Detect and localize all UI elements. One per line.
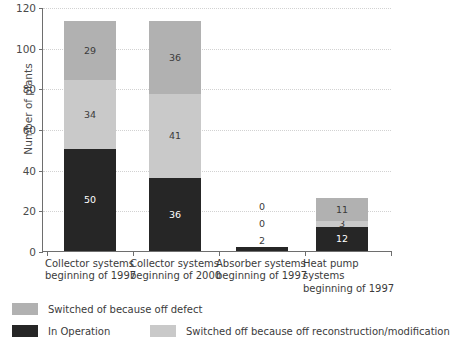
x-tick-mark: [47, 251, 48, 256]
x-category-label-line: Collector systems: [45, 258, 136, 270]
y-tick-label: 100: [16, 43, 36, 55]
x-category-label: Heat pumpsystemsbeginning of 1997: [303, 258, 394, 295]
plot-area: 020406080100120 50342936413620012311: [42, 8, 391, 252]
x-category-label-line: systems: [303, 270, 394, 282]
y-tick-label: 80: [23, 83, 36, 95]
y-tick-label: 120: [16, 2, 36, 14]
x-category-label-line: beginning of 1997: [45, 270, 136, 282]
legend-swatch: [150, 325, 176, 337]
y-tick-mark: [39, 252, 43, 253]
x-tick-mark: [219, 251, 220, 256]
legend-item[interactable]: In Operation: [12, 325, 110, 337]
y-tick-label: 40: [23, 165, 36, 177]
x-category-label: Collector systemsbeginning of 2000: [130, 258, 221, 283]
legend-swatch: [12, 303, 38, 315]
legend-item[interactable]: Switched off because off reconstruction/…: [150, 325, 450, 337]
y-tick-label: 0: [29, 246, 36, 258]
x-category-label-line: Collector systems: [130, 258, 221, 270]
y-tick-label: 20: [23, 205, 36, 217]
legend-label: In Operation: [48, 326, 110, 337]
legend-swatch: [12, 325, 38, 337]
x-category-label: Absorber systemsbeginning of 1997: [216, 258, 307, 283]
x-category-label: Collector systemsbeginning of 1997: [45, 258, 136, 283]
y-axis-title: Number of plants: [22, 34, 34, 184]
x-category-label-line: beginning of 2000: [130, 270, 221, 282]
x-category-label-line: Heat pump: [303, 258, 394, 270]
chart-legend: Switched of because off defectIn Operati…: [0, 300, 404, 350]
legend-item[interactable]: Switched of because off defect: [12, 303, 202, 315]
x-axis-labels: Collector systemsbeginning of 1997Collec…: [42, 258, 404, 306]
x-category-label-line: beginning of 1997: [216, 270, 307, 282]
x-tick-mark: [391, 251, 392, 256]
x-category-label-line: Absorber systems: [216, 258, 307, 270]
y-tick-label: 60: [23, 124, 36, 136]
legend-label: Switched of because off defect: [48, 304, 202, 315]
x-tick-mark: [133, 251, 134, 256]
x-axis-ticks: [43, 8, 391, 251]
x-category-label-line: beginning of 1997: [303, 283, 394, 295]
legend-label: Switched off because off reconstruction/…: [186, 326, 450, 337]
x-tick-mark: [305, 251, 306, 256]
